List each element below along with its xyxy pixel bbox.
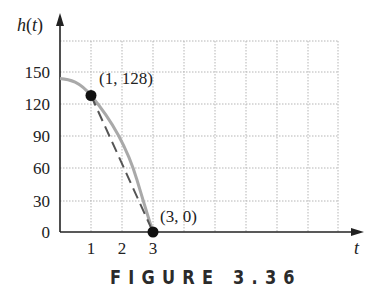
y-tick-0: 0 (42, 223, 51, 242)
secant-line (91, 96, 153, 233)
y-axis-label: h(t) (17, 15, 43, 36)
x-tick-1: 1 (87, 239, 96, 258)
point-3-0 (148, 227, 159, 238)
point-1-128 (86, 90, 97, 101)
x-tick-3: 3 (149, 239, 158, 258)
y-tick-150: 150 (25, 63, 51, 82)
axes (56, 13, 364, 236)
y-tick-90: 90 (33, 127, 50, 146)
point-label-3-0: (3, 0) (160, 207, 197, 226)
point-label-1-128: (1, 128) (99, 69, 153, 88)
y-tick-120: 120 (25, 95, 51, 114)
chart-figure: h(t) 150 120 90 60 30 0 1 2 3 t (1, 128)… (0, 0, 387, 295)
x-axis-label: t (354, 238, 360, 258)
curve-h (60, 78, 153, 232)
y-tick-30: 30 (33, 192, 50, 211)
x-tick-2: 2 (118, 239, 127, 258)
y-tick-labels: 150 120 90 60 30 0 (25, 63, 51, 242)
y-tick-60: 60 (33, 159, 50, 178)
x-tick-labels: 1 2 3 (87, 239, 158, 258)
figure-caption: FIGURE 3.36 (110, 266, 280, 288)
